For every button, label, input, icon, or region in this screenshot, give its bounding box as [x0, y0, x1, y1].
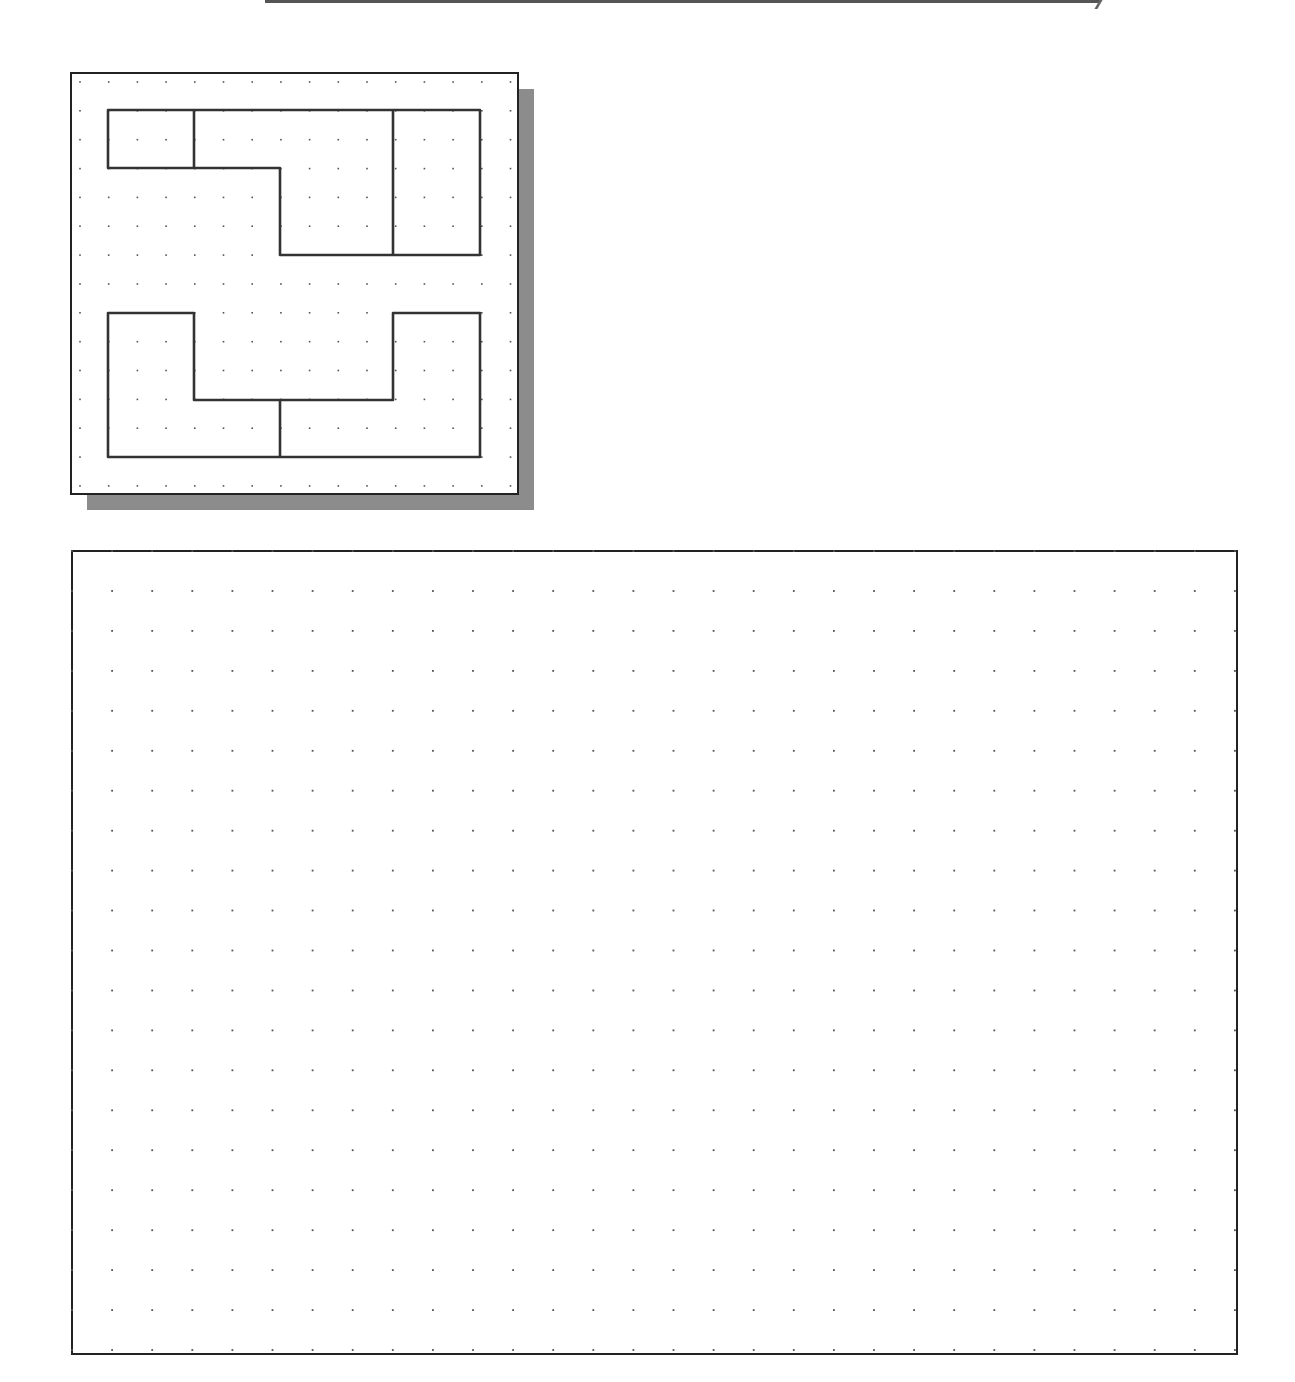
sketch-grid-panel[interactable] [71, 550, 1237, 1354]
reference-panel [71, 73, 534, 510]
worksheet-drawing [0, 0, 1295, 1382]
sketch-area-frame[interactable] [72, 551, 1237, 1354]
